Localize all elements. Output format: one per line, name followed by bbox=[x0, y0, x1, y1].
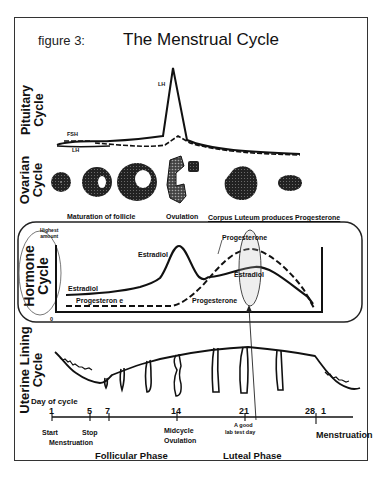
tick-label-day-14: 14 bbox=[171, 406, 181, 416]
luteal-phase-label: Luteal Phase bbox=[223, 450, 282, 461]
lab-test-line1: A good bbox=[234, 422, 253, 428]
midcycle-label: Midcycle bbox=[164, 427, 194, 434]
corpus-luteum bbox=[225, 166, 258, 200]
caption-ovulation: Ovulation bbox=[166, 213, 198, 220]
tick-label-day-7: 7 bbox=[105, 406, 110, 416]
tick-label-day-5: 5 bbox=[87, 406, 92, 416]
estradiol-peak-label: Estradiol bbox=[138, 251, 168, 258]
tick-label-day-28: 28 bbox=[305, 406, 315, 416]
estradiol-start-label: Estradiol bbox=[68, 285, 98, 292]
progesterone-rise-label: Progesterone bbox=[192, 297, 237, 304]
menstruation-end-label: Menstruation bbox=[316, 430, 373, 440]
lab-test-line2: lab test day bbox=[225, 429, 255, 435]
y-axis-zero-label: 0 bbox=[50, 316, 53, 322]
uterine-gland-5 bbox=[212, 348, 219, 392]
follicle-2 bbox=[82, 167, 112, 197]
estradiol-curve bbox=[66, 246, 313, 304]
tick-label-day-1-next: 1 bbox=[321, 406, 326, 416]
hormone-label-oval bbox=[19, 231, 61, 315]
start-label: Start bbox=[42, 429, 58, 436]
released-egg bbox=[188, 161, 199, 172]
uterine-lining-curve bbox=[55, 347, 360, 389]
tick-label-day-1: 1 bbox=[49, 406, 54, 416]
lh-low-curve bbox=[57, 146, 110, 147]
lh-peak-label: LH bbox=[158, 81, 165, 87]
amount-text: amount bbox=[40, 234, 58, 240]
follicular-phase-label: Follicular Phase bbox=[95, 450, 168, 461]
lh-low-label: LH bbox=[72, 147, 79, 153]
uterine-gland-6 bbox=[240, 347, 248, 393]
caption-corpus-luteum: Corpus Luteum produces Progesterone bbox=[208, 214, 340, 221]
caption-maturation: Maturation of follicle bbox=[67, 213, 135, 220]
lab-test-arrow bbox=[249, 308, 256, 420]
progesterone-peak-label: Progesterone bbox=[222, 234, 267, 241]
uterine-gland-1 bbox=[105, 378, 108, 388]
lab-test-highlight-oval bbox=[239, 230, 261, 306]
uterine-gland-4 bbox=[174, 354, 181, 396]
ovulation-day-label: Ovulation bbox=[164, 437, 196, 444]
stop-label: Stop bbox=[82, 429, 98, 436]
uterine-gland-7 bbox=[276, 350, 283, 390]
menstruation-start-label: Menstruation bbox=[49, 439, 93, 446]
progesterone-start-label: Progesteron e bbox=[76, 297, 123, 304]
uterine-gland-3 bbox=[146, 360, 152, 392]
day-of-cycle-label: Day of cycle bbox=[31, 397, 78, 406]
progesterone-pointer bbox=[218, 240, 222, 254]
corpus-albicans bbox=[278, 175, 302, 191]
y-axis-highest-label: Highest amount bbox=[40, 228, 58, 240]
estradiol-luteal-label: Estradiol bbox=[234, 271, 264, 278]
fsh-label: FSH bbox=[67, 131, 78, 137]
tick-label-day-21: 21 bbox=[239, 406, 249, 416]
ovulation-follicle bbox=[167, 156, 186, 203]
lh-curve bbox=[57, 68, 300, 154]
